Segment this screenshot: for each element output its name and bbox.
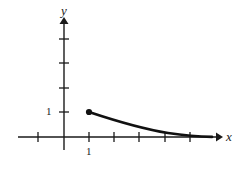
exponential-decay-curve — [89, 112, 212, 137]
curve-endpoint-dot — [86, 109, 92, 115]
y-axis-arrowhead — [60, 17, 69, 24]
plot-canvas — [0, 0, 239, 177]
x-axis-arrowhead — [216, 133, 223, 142]
graph-figure: y x 1 1 — [0, 0, 239, 177]
y-axis-tick-label-1: 1 — [46, 106, 52, 117]
y-axis-label: y — [61, 4, 67, 17]
x-axis-label: x — [226, 130, 232, 143]
x-axis-tick-label-1: 1 — [86, 146, 92, 157]
